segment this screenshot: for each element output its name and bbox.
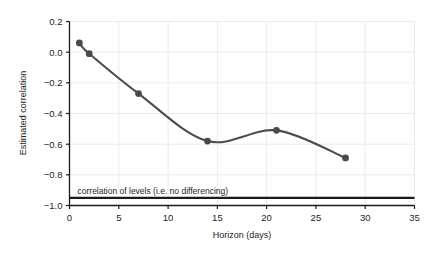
x-tick-label: 20 xyxy=(261,212,272,223)
data-point xyxy=(135,90,142,97)
y-tick-label: −0.6 xyxy=(44,139,63,150)
x-tick-label: 10 xyxy=(163,212,174,223)
y-tick-label: −0.2 xyxy=(44,77,63,88)
data-point xyxy=(273,127,280,134)
x-tick-label: 30 xyxy=(360,212,371,223)
data-point xyxy=(86,50,93,57)
x-tick-label: 35 xyxy=(409,212,420,223)
chart-figure: 0.20.0−0.2−0.4−0.6−0.8−1.0 0510152025303… xyxy=(0,0,427,266)
y-tick-label: 0.0 xyxy=(49,47,62,58)
x-tick-label: 0 xyxy=(67,212,72,223)
y-tick-label: 0.2 xyxy=(49,16,62,27)
correlation-line-chart: 0.20.0−0.2−0.4−0.6−0.8−1.0 0510152025303… xyxy=(0,0,427,266)
x-tick-label: 25 xyxy=(311,212,322,223)
y-axis-title: Estimated correlation xyxy=(18,71,28,156)
figure-background xyxy=(0,0,427,266)
data-point xyxy=(76,40,83,47)
y-tick-label: −0.8 xyxy=(44,169,63,180)
x-axis-title: Horizon (days) xyxy=(213,230,272,240)
x-tick-label: 15 xyxy=(212,212,223,223)
data-point xyxy=(204,138,211,145)
y-tick-label: −0.4 xyxy=(44,108,63,119)
y-tick-label: −1.0 xyxy=(44,200,63,211)
x-tick-label: 5 xyxy=(116,212,121,223)
reference-line-label: correlation of levels (i.e. no differenc… xyxy=(78,186,229,196)
data-point xyxy=(342,155,349,162)
